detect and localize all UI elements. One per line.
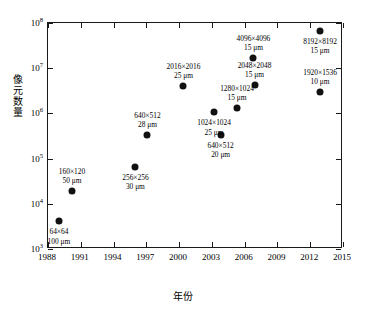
annotation-resolution: 640×512 [134,111,160,120]
x-tick-top [114,23,115,28]
figure-container: 像元数量 年份 103104105106107108 1988199119941… [0,0,365,314]
x-tick-bottom [343,242,344,247]
data-point [132,163,139,170]
data-point [317,88,324,95]
annotation-pitch: 20 μm [207,150,233,159]
y-tick-label: 106 [31,106,43,118]
point-annotation: 1920×153610 μm [303,68,337,86]
x-tick-label: 2009 [267,252,285,262]
annotation-resolution: 4096×4096 [237,34,271,43]
annotation-pitch: 100 μm [48,237,71,246]
point-annotation: 1280×102415 μm [220,84,254,102]
annotation-pitch: 25 μm [197,128,231,137]
y-tick-label: 108 [31,16,43,28]
annotation-resolution: 1024×1024 [197,118,231,127]
y-tick-left [48,68,53,69]
annotation-resolution: 8192×8192 [303,37,337,46]
annotation-resolution: 640×512 [207,141,233,150]
x-tick-label: 2006 [235,252,253,262]
y-tick-right [336,159,341,160]
y-tick-right [336,23,341,24]
point-annotation: 640×51228 μm [134,111,160,129]
point-annotation: 160×12050 μm [59,167,85,185]
y-tick-label: 104 [31,197,43,209]
annotation-pitch: 50 μm [59,176,85,185]
x-tick-label: 1994 [104,252,122,262]
annotation-resolution: 64×64 [48,227,71,236]
annotation-pitch: 28 μm [134,120,160,129]
annotation-resolution: 256×256 [122,173,148,182]
x-tick-label: 1997 [136,252,154,262]
data-point [250,54,257,61]
x-tick-bottom [114,242,115,247]
y-tick-left [48,113,53,114]
y-tick-left [48,23,53,24]
point-annotation: 4096×409615 μm [237,34,271,52]
x-tick-top [179,23,180,28]
x-tick-label: 2015 [333,252,351,262]
x-tick-bottom [179,242,180,247]
x-tick-bottom [277,242,278,247]
annotation-resolution: 160×120 [59,167,85,176]
x-tick-bottom [212,242,213,247]
annotation-pitch: 15 μm [238,70,272,79]
y-tick-label: 107 [31,61,43,73]
x-tick-label: 2000 [169,252,187,262]
y-tick-right [336,204,341,205]
point-annotation: 1024×102425 μm [197,118,231,136]
data-point [55,218,62,225]
point-annotation: 2048×204815 μm [238,61,272,79]
data-point [69,187,76,194]
y-tick-left [48,249,53,250]
x-tick-label: 1988 [38,252,56,262]
x-tick-top [81,23,82,28]
annotation-pitch: 10 μm [303,77,337,86]
x-tick-label: 2012 [300,252,318,262]
x-tick-bottom [310,242,311,247]
x-tick-top [146,23,147,28]
x-tick-label: 1991 [71,252,89,262]
plot-area: 64×64100 μm160×12050 μm256×25630 μm640×5… [47,22,342,248]
x-tick-top [343,23,344,28]
data-point [180,82,187,89]
annotation-pitch: 30 μm [122,182,148,191]
x-tick-top [245,23,246,28]
y-tick-right [336,113,341,114]
point-annotation: 256×25630 μm [122,173,148,191]
annotation-resolution: 2016×2016 [167,62,201,71]
x-axis-title: 年份 [0,288,365,303]
y-tick-right [336,249,341,250]
y-axis-tick-labels: 103104105106107108 [0,0,43,314]
annotation-pitch: 15 μm [220,93,254,102]
y-tick-left [48,159,53,160]
x-tick-top [277,23,278,28]
annotation-pitch: 15 μm [237,43,271,52]
annotation-pitch: 25 μm [167,71,201,80]
x-tick-top [212,23,213,28]
point-annotation: 8192×819215 μm [303,37,337,55]
data-point [234,105,241,112]
y-tick-left [48,204,53,205]
annotation-resolution: 1920×1536 [303,68,337,77]
point-annotation: 640×51220 μm [207,141,233,159]
point-annotation: 64×64100 μm [48,227,71,245]
annotation-resolution: 2048×2048 [238,61,272,70]
x-tick-bottom [245,242,246,247]
x-tick-top [310,23,311,28]
annotation-resolution: 1280×1024 [220,84,254,93]
data-point [317,28,324,35]
data-point [211,109,218,116]
x-tick-bottom [146,242,147,247]
x-tick-label: 2003 [202,252,220,262]
annotation-pitch: 15 μm [303,46,337,55]
data-point [144,132,151,139]
x-tick-bottom [81,242,82,247]
point-annotation: 2016×201625 μm [167,62,201,80]
y-tick-label: 105 [31,152,43,164]
